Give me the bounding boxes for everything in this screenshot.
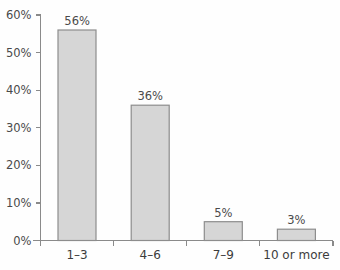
y-tick-label: 50% xyxy=(6,46,32,60)
bar xyxy=(277,229,315,240)
y-axis-ticks: 0%10%20%30%40%50%60% xyxy=(6,8,41,248)
bar xyxy=(131,105,169,240)
x-axis-labels: 1–34–67–910 or more xyxy=(66,248,329,262)
bar-value-label: 5% xyxy=(214,206,232,220)
chart-svg: 0%10%20%30%40%50%60% 56%36%5%3% 1–34–67–… xyxy=(0,0,340,270)
bar-chart: 0%10%20%30%40%50%60% 56%36%5%3% 1–34–67–… xyxy=(0,0,340,270)
y-tick-label: 30% xyxy=(6,121,32,135)
bar-value-label: 36% xyxy=(137,89,163,103)
x-axis-category-label: 10 or more xyxy=(263,248,329,262)
y-tick-label: 0% xyxy=(13,234,31,248)
bar xyxy=(58,30,96,241)
bar xyxy=(204,222,242,241)
bar-value-label: 56% xyxy=(64,14,90,28)
x-axis-category-label: 4–6 xyxy=(140,248,161,262)
x-axis-category-label: 1–3 xyxy=(66,248,87,262)
bars-group: 56%36%5%3% xyxy=(58,14,315,241)
y-axis-group: 0%10%20%30%40%50%60% xyxy=(6,8,41,248)
x-axis-ticks xyxy=(41,241,334,246)
bar-value-label: 3% xyxy=(287,213,305,227)
y-tick-label: 40% xyxy=(6,83,32,97)
y-tick-label: 10% xyxy=(6,196,32,210)
y-tick-label: 20% xyxy=(6,158,32,172)
x-axis-group xyxy=(33,241,333,246)
y-tick-label: 60% xyxy=(6,8,32,22)
x-axis-category-label: 7–9 xyxy=(213,248,234,262)
